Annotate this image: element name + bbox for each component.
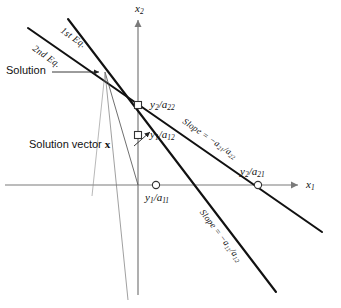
- solution-vector-symbol: x: [105, 138, 111, 150]
- solution-vector-label: Solution vector x: [29, 139, 110, 150]
- solution-helper-line-secondary: [92, 72, 105, 196]
- x-intercept-label-second-eq: y2/a21: [240, 166, 265, 179]
- x-axis-label: x1: [306, 179, 315, 192]
- solution-vector-text: Solution vector: [29, 138, 102, 150]
- second-equation-line: [28, 28, 322, 232]
- y-axis-label: x2: [135, 3, 144, 16]
- x-intercept-label-first-eq: y1/a11: [145, 192, 169, 205]
- solution-vector-group: [92, 72, 138, 300]
- linear-equations-diagram: x2 x1 1st Eq. 2nd Eq. Solution Solution …: [0, 0, 341, 308]
- first-equation-line: [68, 19, 276, 292]
- y-intercept-label-second-eq: y2/a22: [150, 99, 175, 112]
- y-intercept-label-first-eq: y1/a12: [150, 129, 175, 142]
- solution-helper-line: [105, 72, 128, 300]
- marker-y2-over-a21: [254, 181, 261, 188]
- diagram-canvas: [0, 0, 341, 308]
- marker-y1-over-a12: [135, 132, 142, 139]
- marker-y1-over-a11: [152, 181, 159, 188]
- marker-y2-over-a22: [135, 102, 142, 109]
- solution-label: Solution: [6, 65, 46, 76]
